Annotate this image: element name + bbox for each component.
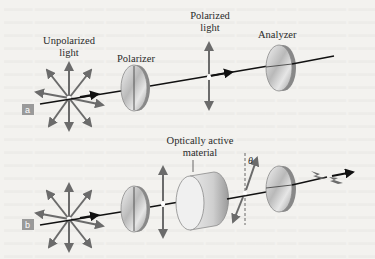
optical-activity-diagram: a Polarizer Polarized light Analyzer Unp… (0, 0, 375, 259)
analyzer-disk (266, 166, 296, 212)
panel-tag-a-label: a (25, 105, 30, 115)
panel-b: b Optically active material θ (22, 135, 353, 251)
polarized-light-label-2: light (200, 22, 219, 33)
polarizer-disk (121, 65, 150, 111)
optically-active-material-cylinder (176, 172, 229, 230)
ray-direction-arrow (210, 72, 232, 76)
panel-a: a Polarizer Polarized light Analyzer Unp… (22, 10, 334, 130)
unpolarized-light-label-2: light (59, 47, 78, 58)
polarized-light-label-1: Polarized (190, 10, 230, 21)
polarizer-label: Polarizer (117, 53, 155, 64)
polarizer-disk (121, 186, 150, 232)
analyzer-label: Analyzer (258, 29, 297, 40)
material-label-1: Optically active (167, 135, 234, 146)
panel-tag-b-label: b (25, 220, 30, 230)
analyzer-disk (266, 45, 296, 91)
ray-segment-3 (292, 56, 334, 64)
transmitted-ray-arrow (332, 172, 353, 176)
unpolarized-light-label-1: Unpolarized (43, 35, 96, 46)
theta-angle-label: θ (248, 155, 253, 166)
material-label-2: material (183, 147, 217, 158)
